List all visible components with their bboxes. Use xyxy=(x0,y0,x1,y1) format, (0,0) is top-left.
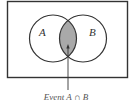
caption: Event A ∩ B xyxy=(0,92,132,101)
set-b-label: B xyxy=(89,26,96,38)
set-a-label: A xyxy=(38,26,46,38)
venn-diagram: A B xyxy=(0,0,132,101)
